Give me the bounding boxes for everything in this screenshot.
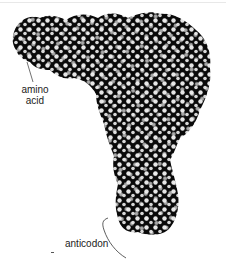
amino-acid-leader-line	[27, 62, 33, 82]
amino-acid-label: amino acid	[18, 84, 52, 106]
amino-acid-label-line1: amino	[18, 84, 52, 95]
anticodon-label: anticodon	[65, 238, 108, 249]
trna-molecule-model	[0, 0, 226, 271]
stray-mark	[51, 252, 54, 253]
amino-acid-label-line2: acid	[18, 95, 52, 106]
